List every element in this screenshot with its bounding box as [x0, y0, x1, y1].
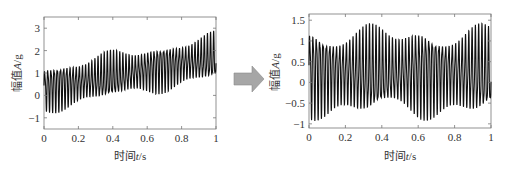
svg-text:0.8: 0.8	[448, 131, 462, 143]
svg-text:3: 3	[35, 22, 41, 34]
svg-text:0: 0	[300, 76, 306, 88]
svg-text:0.2: 0.2	[72, 132, 86, 144]
svg-text:−1: −1	[293, 118, 305, 130]
left-chart-raw-signal: 00.20.40.60.81−10123 时间t/s 幅值A/g	[11, 17, 219, 162]
svg-text:0.4: 0.4	[375, 131, 389, 143]
left-x-axis-label: 时间t/s	[114, 150, 146, 162]
svg-text:0: 0	[35, 89, 41, 101]
svg-text:−1: −1	[28, 112, 40, 124]
svg-text:0.6: 0.6	[411, 131, 425, 143]
right-y-axis-label: 幅值A/g	[269, 53, 281, 91]
svg-text:−0.5: −0.5	[285, 97, 305, 109]
svg-text:0.4: 0.4	[106, 132, 120, 144]
figure: 00.20.40.60.81−10123 时间t/s 幅值A/g 00.20.4…	[0, 0, 509, 174]
svg-text:0: 0	[306, 131, 312, 143]
right-arrow-icon	[234, 66, 264, 92]
svg-text:0.6: 0.6	[140, 132, 154, 144]
right-x-axis-label: 时间t/s	[384, 150, 416, 162]
svg-text:0.5: 0.5	[291, 56, 305, 68]
svg-text:2: 2	[35, 45, 41, 57]
svg-text:1: 1	[213, 132, 219, 144]
svg-text:1.5: 1.5	[291, 14, 305, 26]
svg-text:0.2: 0.2	[339, 131, 353, 143]
right-chart-detrended-signal: 00.20.40.60.81−1−0.500.511.5 时间t/s 幅值A/g	[269, 14, 494, 162]
svg-text:0.8: 0.8	[175, 132, 189, 144]
svg-text:1: 1	[35, 67, 41, 79]
svg-text:1: 1	[488, 131, 494, 143]
svg-text:0: 0	[41, 132, 47, 144]
svg-text:1: 1	[300, 35, 306, 47]
left-y-axis-label: 幅值A/g	[11, 54, 23, 92]
